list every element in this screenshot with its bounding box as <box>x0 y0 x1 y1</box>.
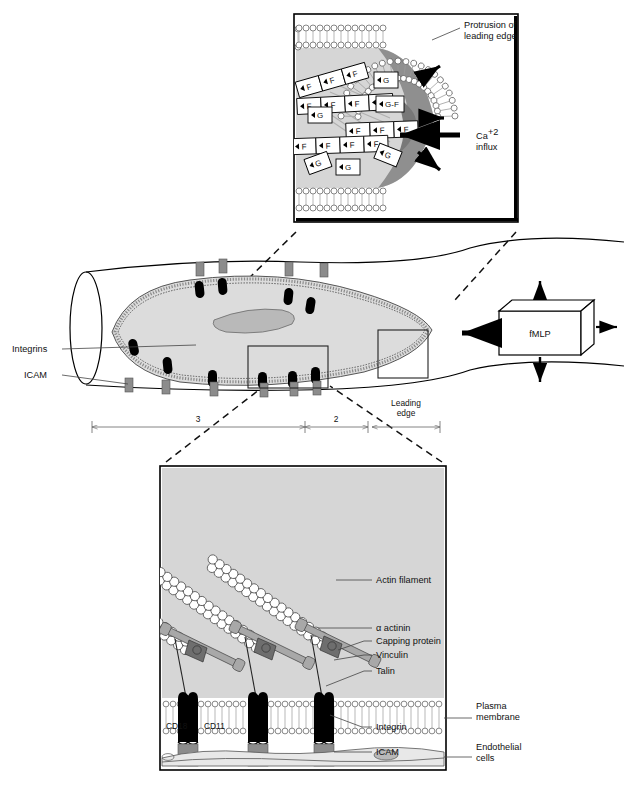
talin-label: Talin <box>376 666 395 676</box>
region-scale-bar: 3 2 Leading edge <box>92 398 440 433</box>
svg-text:G-F: G-F <box>385 100 399 109</box>
region-leading-edge: Leading edge <box>372 398 440 433</box>
plasma-membrane-label-line1: Plasma <box>476 701 508 711</box>
cd18-label: CD18 <box>166 721 188 731</box>
plasma-membrane-label-line2: membrane <box>476 712 520 722</box>
cd11-label: CD11 <box>204 721 225 731</box>
actin-g-box: G <box>336 159 360 175</box>
leading-edge-label-line2: edge <box>397 408 416 418</box>
region-3-label: 3 <box>196 414 201 424</box>
capping-protein-label: Capping protein <box>376 636 441 646</box>
leading-edge-label-line1: Leading <box>391 398 421 408</box>
neutrophil-cell <box>112 276 432 385</box>
integrin-dimer <box>178 692 198 745</box>
protrusion-label-line2: leading edge <box>464 31 517 41</box>
svg-text:G: G <box>317 111 323 120</box>
region-3: 3 <box>92 414 305 433</box>
svg-text:G: G <box>345 163 351 172</box>
region-2: 2 <box>305 414 368 433</box>
cd18-label-group: CD18 <box>166 721 188 731</box>
actin-gf-box: G-F <box>376 96 404 112</box>
actin-f-box: F F F F <box>292 135 388 154</box>
fmlp-box: fMLP <box>499 300 594 355</box>
fmlp-label: fMLP <box>529 329 550 339</box>
svg-text:F: F <box>354 99 359 108</box>
actin-g-box: G <box>374 72 398 88</box>
calcium-superscript: +2 <box>488 127 498 137</box>
svg-text:F: F <box>379 126 384 135</box>
vinculin-label: Vinculin <box>376 650 408 660</box>
calcium-influx-label: influx <box>476 142 498 152</box>
protrusion-label-line1: Protrusion of <box>464 20 517 30</box>
svg-text:F: F <box>325 142 330 151</box>
figure-canvas: F F F F F F F F F F <box>0 0 624 785</box>
bottom-panel: Actin filament α actinin Capping protein… <box>72 466 522 770</box>
svg-text:F: F <box>349 141 354 150</box>
integrin-dimer <box>314 692 334 745</box>
endothelial-cells-label-line1: Endothelial <box>476 742 521 752</box>
calcium-label: Ca <box>476 131 489 141</box>
integrins-label: Integrins <box>12 344 48 354</box>
icam-label-bottom: ICAM <box>376 747 399 757</box>
svg-text:G: G <box>383 76 389 85</box>
middle-panel: Integrins ICAM fMLP <box>12 238 624 433</box>
top-panel: F F F F F F F F F F <box>292 14 518 222</box>
svg-text:F: F <box>301 142 306 151</box>
cd11-label-group: CD11 <box>204 721 225 731</box>
actin-g-box: G <box>308 107 332 123</box>
endothelial-cells-label-group: Endothelial cells <box>444 742 521 763</box>
icam-label: ICAM <box>24 370 47 380</box>
svg-text:F: F <box>355 127 360 136</box>
actin-filament-label: Actin filament <box>376 575 432 585</box>
integrin-label: Integrin <box>376 722 407 732</box>
region-2-label: 2 <box>334 414 339 424</box>
alpha-actinin-label: α actinin <box>376 623 410 633</box>
plasma-membrane-label-group: Plasma membrane <box>444 701 520 722</box>
endothelial-cells-label-line2: cells <box>476 753 495 763</box>
integrin-dimer <box>248 692 268 745</box>
